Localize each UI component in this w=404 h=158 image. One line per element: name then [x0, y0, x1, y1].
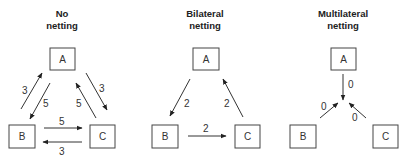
svg-text:B: B — [300, 131, 307, 142]
node-a: A — [193, 48, 219, 70]
svg-text:0: 0 — [321, 101, 327, 112]
node-a: A — [331, 48, 356, 70]
node-b: B — [9, 125, 35, 148]
node-c: C — [235, 125, 260, 148]
svg-text:3: 3 — [99, 83, 105, 94]
panel-title-line1: Bilateral — [186, 8, 224, 19]
edge-b-to-c: 2 — [188, 123, 226, 136]
edge-c-to-b: 3 — [43, 142, 82, 157]
svg-text:C: C — [244, 131, 251, 142]
panel-no-netting: No netting A B C 3 5 3 — [9, 8, 115, 157]
edge-b-to-c: 5 — [44, 116, 82, 128]
svg-text:5: 5 — [43, 98, 49, 109]
edge-c-to-a: 5 — [76, 83, 96, 118]
svg-text:C: C — [382, 131, 389, 142]
edge-a-to-c: 3 — [86, 73, 107, 110]
edge-a-to-center: 0 — [343, 74, 354, 100]
panel-title-line2: netting — [189, 20, 221, 31]
node-a: A — [50, 48, 75, 70]
svg-text:B: B — [19, 131, 26, 142]
svg-text:5: 5 — [59, 116, 65, 127]
svg-text:0: 0 — [348, 79, 354, 90]
svg-text:B: B — [162, 131, 169, 142]
edge-c-to-center: 0 — [349, 103, 366, 123]
panel-title-line2: netting — [46, 20, 78, 31]
svg-text:C: C — [99, 131, 106, 142]
panel-bilateral-netting: Bilateral netting A B C 2 2 2 — [152, 8, 260, 148]
svg-text:A: A — [340, 54, 347, 65]
svg-text:5: 5 — [76, 98, 82, 109]
node-b: B — [290, 125, 316, 148]
svg-text:A: A — [59, 54, 66, 65]
edge-c-to-a: 2 — [223, 79, 243, 117]
svg-text:2: 2 — [203, 123, 209, 134]
node-c: C — [373, 125, 398, 148]
edge-a-to-b: 2 — [170, 79, 190, 116]
svg-text:2: 2 — [224, 98, 230, 109]
svg-text:A: A — [203, 54, 210, 65]
netting-diagram: No netting A B C 3 5 3 — [0, 0, 404, 158]
node-c: C — [90, 125, 115, 148]
panel-title-line2: netting — [327, 20, 359, 31]
svg-text:0: 0 — [352, 112, 358, 123]
node-b: B — [152, 125, 178, 148]
svg-text:3: 3 — [59, 146, 65, 157]
svg-text:2: 2 — [184, 98, 190, 109]
panel-title-line1: Multilateral — [318, 8, 368, 19]
panel-multilateral-netting: Multilateral netting A B C 0 0 0 — [290, 8, 398, 148]
panel-title-line1: No — [56, 8, 69, 19]
svg-text:3: 3 — [22, 85, 28, 96]
edge-b-to-center: 0 — [320, 101, 338, 118]
